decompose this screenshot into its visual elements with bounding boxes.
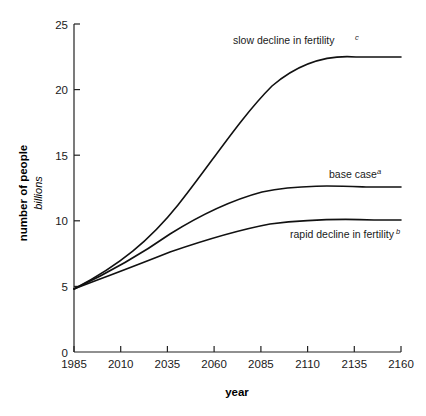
- x-tick-label-1985: 1985: [61, 358, 87, 370]
- y-tick-label-25: 25: [55, 19, 68, 31]
- chart-container: 25 20 15 10 5 0 1985 2010 2035 2060 2085…: [0, 0, 426, 416]
- annotation-slow-decline: slow decline in fertility c: [233, 33, 359, 46]
- y-tick-label-20: 20: [55, 84, 68, 96]
- series-label-slow-decline: slow decline in fertility: [233, 34, 335, 46]
- x-axis-title: year: [225, 386, 249, 398]
- annotation-rapid-decline: rapid decline in fertility b: [290, 227, 400, 240]
- x-tick-label-2060: 2060: [201, 358, 227, 370]
- series-label-slow-decline-superscript: c: [355, 33, 359, 42]
- y-tick-label-10: 10: [55, 215, 68, 227]
- annotation-base-case: base case a: [329, 167, 381, 180]
- x-tick-label-2110: 2110: [295, 358, 320, 370]
- x-tick-label-2160: 2160: [388, 358, 414, 370]
- x-tick-label-2035: 2035: [155, 358, 181, 370]
- y-axis: 25 20 15 10 5 0: [55, 19, 80, 359]
- y-axis-subtitle: billions: [32, 176, 44, 210]
- series-label-rapid-decline: rapid decline in fertility: [290, 228, 395, 240]
- series-label-base-case: base case: [329, 168, 377, 180]
- x-tick-label-2085: 2085: [248, 358, 274, 370]
- series-label-base-case-superscript: a: [377, 167, 381, 176]
- y-axis-title: number of people: [17, 145, 29, 241]
- y-tick-label-15: 15: [55, 150, 68, 162]
- x-axis: 1985 2010 2035 2060 2085 2110 2135 2160: [61, 346, 414, 370]
- population-projection-chart: 25 20 15 10 5 0 1985 2010 2035 2060 2085…: [0, 0, 426, 416]
- x-tick-label-2010: 2010: [108, 358, 134, 370]
- x-tick-label-2135: 2135: [342, 358, 368, 370]
- series-label-rapid-decline-superscript: b: [396, 227, 400, 236]
- y-tick-label-5: 5: [62, 281, 68, 293]
- y-tick-label-0: 0: [62, 347, 68, 359]
